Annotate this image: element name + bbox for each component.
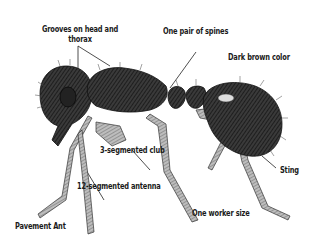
ant-petiole [168, 86, 185, 108]
diagram-title: Pavement Ant [15, 221, 66, 231]
label-sting: Sting [280, 165, 299, 175]
label-antenna: 12-segmented antenna [77, 181, 161, 191]
ant-thorax [87, 68, 167, 112]
label-club: 3-segmented club [100, 145, 165, 155]
label-grooves-line1: Grooves on head and [41, 24, 120, 34]
label-color: Dark brown color [228, 52, 290, 62]
label-grooves-line2: thorax [41, 34, 120, 44]
label-grooves: Grooves on head and thorax [41, 24, 120, 44]
label-worker-size: One worker size [192, 208, 250, 218]
label-spines: One pair of spines [163, 26, 228, 36]
ant-diagram: Grooves on head and thorax One pair of s… [0, 0, 316, 242]
ant-postpetiole [186, 86, 206, 108]
ant-gaster [203, 83, 282, 157]
